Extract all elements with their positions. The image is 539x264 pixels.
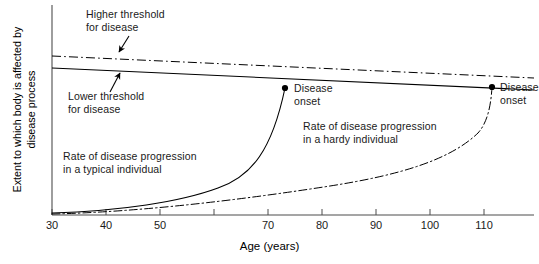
x-tick-label-30: 30: [35, 219, 69, 231]
disease-onset-marker-right: [489, 84, 495, 90]
disease-onset-marker-left: [282, 85, 288, 91]
series-higher-threshold: [52, 56, 534, 78]
x-axis-ticks: [52, 209, 484, 215]
label-disease-onset-left: Disease onset: [294, 82, 333, 107]
x-tick-label-80: 80: [305, 219, 339, 231]
x-tick-label-100: 100: [413, 219, 447, 231]
annotation-lower-threshold: Lower threshold for disease: [68, 90, 144, 115]
x-tick-label-110: 110: [467, 219, 501, 231]
x-tick-label-70: 70: [251, 219, 285, 231]
annotation-typical-rate: Rate of disease progression in a typical…: [63, 150, 197, 175]
x-axis-title: Age (years): [0, 240, 539, 252]
annotation-hardy-rate: Rate of disease progression in a hardy i…: [303, 120, 437, 145]
annotation-higher-threshold: Higher threshold for disease: [86, 8, 165, 33]
x-tick-label-40: 40: [89, 219, 123, 231]
x-tick-label-90: 90: [359, 219, 393, 231]
higher-threshold-pointer-arrow: [119, 36, 129, 52]
series-lower-threshold: [52, 68, 534, 90]
label-disease-onset-right: Disease onset: [500, 81, 539, 106]
y-axis-title: Extent to which body is affected by dise…: [11, 0, 38, 220]
x-tick-label-50: 50: [143, 219, 177, 231]
figure: Extent to which body is affected by dise…: [0, 0, 539, 264]
